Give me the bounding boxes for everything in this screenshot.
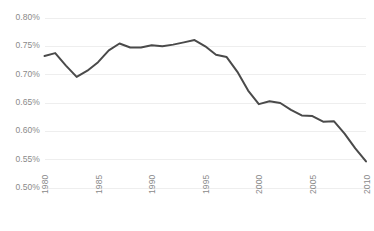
y-axis-tick-label: 0.75% [0, 40, 40, 50]
x-axis-tick-label: 2005 [308, 175, 318, 194]
y-axis-tick-label: 0.60% [0, 125, 40, 135]
line-chart: 0.80%0.75%0.70%0.65%0.60%0.55%0.50% 1980… [0, 0, 374, 231]
x-axis-tick-label: 1995 [201, 175, 211, 194]
y-axis-tick-label: 0.80% [0, 12, 40, 22]
x-axis-tick-label: 1990 [147, 175, 157, 194]
x-axis-tick-label: 1985 [94, 175, 104, 194]
x-axis-tick-label: 2000 [254, 175, 264, 194]
gridlines [45, 18, 367, 188]
y-axis-tick-label: 0.70% [0, 69, 40, 79]
series-group [45, 40, 367, 161]
y-axis-tick-label: 0.65% [0, 97, 40, 107]
chart-plot-area [0, 0, 374, 231]
y-axis-tick-label: 0.50% [0, 182, 40, 192]
y-axis-tick-label: 0.55% [0, 154, 40, 164]
x-axis-tick-label: 2010 [362, 175, 372, 194]
x-axis-tick-label: 1980 [40, 175, 50, 194]
series-line [45, 40, 367, 161]
